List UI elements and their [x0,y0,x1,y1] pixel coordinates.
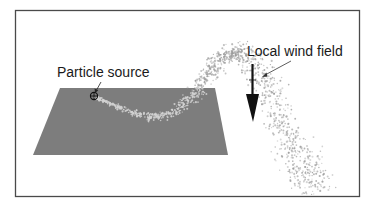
particle-dispersion-figure: Particle source Local wind field [0,0,369,208]
ground-plane [33,88,228,155]
particle-source-label: Particle source [57,64,150,80]
local-wind-field-label: Local wind field [247,43,343,59]
particle-source-marker-icon [90,92,97,99]
